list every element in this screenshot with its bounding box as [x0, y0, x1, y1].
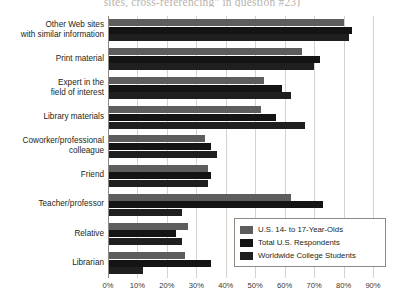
y-axis-label-line: Expert in the — [0, 78, 104, 88]
legend-item: U.S. 14- to 17-Year-Olds — [240, 223, 380, 236]
y-axis-label: Print material — [0, 54, 104, 64]
y-axis-label-line: Friend — [0, 170, 104, 180]
x-axis-tick-label: 30% — [189, 281, 204, 290]
bar — [109, 85, 282, 92]
bar — [109, 63, 314, 70]
y-axis-label-line: with similar information — [0, 30, 104, 40]
bar — [109, 135, 205, 142]
y-axis-label-line: Coworker/professional — [0, 136, 104, 146]
bar — [109, 209, 182, 216]
x-axis-tick-label: 70% — [307, 281, 322, 290]
y-axis-label-line: colleague — [0, 146, 104, 156]
legend-label: Total U.S. Respondents — [258, 238, 340, 247]
bar-group — [108, 16, 373, 45]
y-axis-label: Other Web siteswith similar information — [0, 20, 104, 39]
bar — [109, 194, 291, 201]
legend: U.S. 14- to 17-Year-OldsTotal U.S. Respo… — [234, 218, 386, 267]
y-axis-label: Coworker/professionalcolleague — [0, 136, 104, 155]
legend-swatch — [240, 252, 253, 260]
x-axis-tick-label: 10% — [130, 281, 145, 290]
bar — [109, 122, 305, 129]
y-axis-label-line: Other Web sites — [0, 20, 104, 30]
legend-label: U.S. 14- to 17-Year-Olds — [258, 225, 343, 234]
bar — [109, 143, 211, 150]
y-axis-label-line: Library materials — [0, 112, 104, 122]
bar-group — [108, 45, 373, 74]
bar — [109, 252, 185, 259]
bar — [109, 180, 208, 187]
y-axis-label: Teacher/professor — [0, 199, 104, 209]
bar — [109, 114, 276, 121]
x-axis-labels: 0%10%20%30%40%50%60%70%80%90% — [108, 281, 373, 295]
y-axis-label: Expert in thefield of interest — [0, 78, 104, 97]
bar — [109, 19, 344, 26]
bar — [109, 230, 176, 237]
legend-item: Total U.S. Respondents — [240, 236, 380, 249]
bar — [109, 223, 188, 230]
y-axis-label: Librarian — [0, 258, 104, 268]
bar — [109, 92, 291, 99]
bar-group — [108, 162, 373, 191]
bar — [109, 201, 323, 208]
bar — [109, 151, 217, 158]
bar-group — [108, 191, 373, 220]
bar — [109, 238, 182, 245]
bar — [109, 165, 208, 172]
y-axis-label: Relative — [0, 229, 104, 239]
bar-group — [108, 103, 373, 132]
x-axis-tick-label: 80% — [336, 281, 351, 290]
y-axis-label-line: Teacher/professor — [0, 199, 104, 209]
bar-group — [108, 74, 373, 103]
bar-group — [108, 132, 373, 161]
y-axis-label: Friend — [0, 170, 104, 180]
bar — [109, 77, 264, 84]
y-axis-label-line: Relative — [0, 229, 104, 239]
x-axis-tick-label: 50% — [248, 281, 263, 290]
bar — [109, 34, 349, 41]
y-axis-label: Library materials — [0, 112, 104, 122]
x-axis-tick-label: 60% — [277, 281, 292, 290]
legend-item: Worldwide College Students — [240, 249, 380, 262]
bar — [109, 27, 352, 34]
x-axis-tick-label: 20% — [159, 281, 174, 290]
chart-title: sites, cross-referencing" in question #2… — [0, 0, 404, 7]
y-axis-labels: Other Web siteswith similar informationP… — [0, 16, 104, 278]
bar — [109, 106, 261, 113]
legend-swatch — [240, 239, 253, 247]
legend-label: Worldwide College Students — [258, 251, 356, 260]
x-axis-tick-label: 90% — [365, 281, 380, 290]
bar — [109, 172, 211, 179]
bar — [109, 267, 143, 274]
y-axis-label-line: Librarian — [0, 258, 104, 268]
y-axis-label-line: field of interest — [0, 88, 104, 98]
bar — [109, 48, 302, 55]
x-axis-tick-label: 0% — [103, 281, 114, 290]
bar-chart: sites, cross-referencing" in question #2… — [0, 0, 404, 301]
x-axis-tick-label: 40% — [218, 281, 233, 290]
legend-swatch — [240, 226, 253, 234]
bar — [109, 260, 211, 267]
bar — [109, 56, 320, 63]
y-axis-label-line: Print material — [0, 54, 104, 64]
